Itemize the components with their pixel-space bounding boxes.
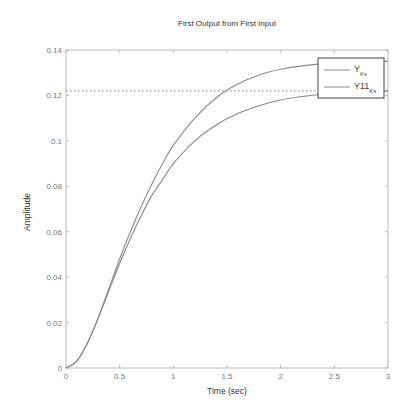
y-tick-label: 0.04 — [46, 273, 62, 282]
x-axis-label: Time (sec) — [207, 386, 247, 396]
series-y11-line — [66, 91, 388, 368]
y-tick-label: 0 — [58, 364, 63, 373]
data-series — [66, 61, 388, 368]
series-y-line — [66, 61, 388, 368]
legend: YKsY11Ks — [318, 58, 384, 98]
x-tick-label: 0 — [64, 372, 69, 381]
x-tick-label: 1.5 — [221, 372, 233, 381]
y-tick-label: 0.06 — [46, 228, 62, 237]
y-tick-label: 0.02 — [46, 319, 62, 328]
x-tick-label: 2.5 — [329, 372, 341, 381]
y-tick-label: 0.1 — [51, 137, 63, 146]
step-response-chart: First Output from First Input 00.511.522… — [0, 0, 409, 415]
x-axis: 00.511.522.53 — [64, 50, 391, 381]
y-axis-label: Amplitude — [22, 193, 32, 231]
x-tick-label: 2 — [278, 372, 283, 381]
y-tick-label: 0.14 — [46, 46, 62, 55]
x-tick-label: 1 — [171, 372, 176, 381]
x-tick-label: 0.5 — [114, 372, 126, 381]
x-tick-label: 3 — [386, 372, 391, 381]
chart-title: First Output from First Input — [178, 19, 277, 28]
y-tick-label: 0.08 — [46, 182, 62, 191]
y-tick-label: 0.12 — [46, 91, 62, 100]
